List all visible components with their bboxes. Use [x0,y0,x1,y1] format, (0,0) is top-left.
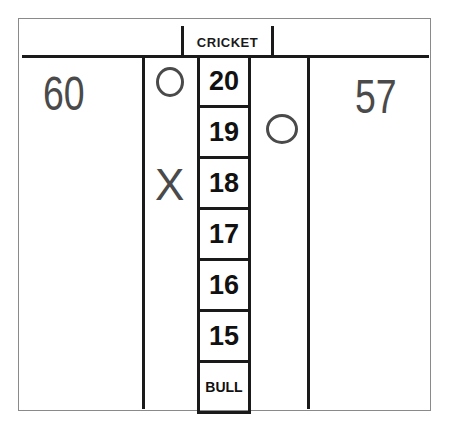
left-18-x-mark-icon: X [155,163,184,207]
right-player-score: 57 [355,73,397,121]
target-column: 20 19 18 17 16 15 BULL [197,57,251,414]
target-16: 16 [197,261,251,312]
right-19-circle-mark-icon [266,114,298,144]
left-column-divider [142,57,145,409]
left-player-score: 60 [43,70,85,118]
target-15: 15 [197,312,251,363]
target-20: 20 [197,57,251,108]
target-18: 18 [197,159,251,210]
left-20-circle-mark-icon [156,67,184,97]
target-19: 19 [197,108,251,159]
right-column-divider [307,57,310,409]
game-title: CRICKET [184,35,271,50]
target-17: 17 [197,210,251,261]
target-bull: BULL [197,363,251,414]
game-title-box: CRICKET [181,26,274,57]
